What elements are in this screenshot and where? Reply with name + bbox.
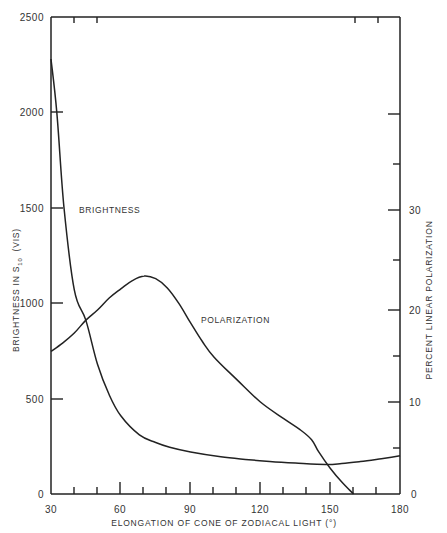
left-axis-title-subscript: 10	[17, 257, 23, 265]
tick-label-30: 30	[409, 205, 421, 216]
right-axis-title-text: PERCENT LINEAR POLARIZATION	[424, 220, 434, 379]
tick-label-x-150: 150	[321, 504, 339, 515]
bottom-tick-labels: 30 60 90 120 150 180	[45, 504, 409, 515]
plot-frame	[51, 17, 400, 494]
zodiacal-light-chart: 2500 2000 1500 1000 500 0 30 20 10 0 30 …	[0, 0, 447, 533]
svg-text:BRIGHTNESS IN S10(VIS): BRIGHTNESS IN S10(VIS)	[11, 228, 23, 352]
left-axis-title-suffix: (VIS)	[11, 228, 21, 251]
tick-label-0-right: 0	[411, 489, 417, 500]
left-axis-ticks	[51, 112, 63, 399]
polarization-curve	[51, 276, 354, 494]
left-tick-labels: 2500 2000 1500 1000 500 0	[20, 12, 44, 500]
tick-label-1000: 1000	[20, 298, 44, 309]
tick-label-10: 10	[409, 397, 421, 408]
right-axis-title: PERCENT LINEAR POLARIZATION	[424, 220, 434, 379]
bottom-axis-ticks	[74, 482, 376, 494]
tick-label-0-left: 0	[38, 489, 44, 500]
tick-label-x-90: 90	[184, 504, 196, 515]
tick-label-2000: 2000	[20, 107, 44, 118]
tick-label-x-30: 30	[45, 504, 57, 515]
tick-label-1500: 1500	[20, 203, 44, 214]
tick-label-20: 20	[409, 305, 421, 316]
left-axis-title-main: BRIGHTNESS IN S	[11, 266, 21, 352]
left-axis-title: BRIGHTNESS IN S10(VIS)	[11, 228, 23, 352]
x-axis-title: ELONGATION OF CONE OF ZODIACAL LIGHT (°)	[111, 518, 337, 528]
tick-label-500: 500	[26, 394, 44, 405]
top-axis-ticks	[74, 17, 378, 23]
brightness-curve	[51, 59, 400, 464]
right-axis-ticks	[388, 114, 400, 448]
tick-label-2500: 2500	[20, 12, 44, 23]
right-tick-labels: 30 20 10 0	[409, 205, 421, 500]
tick-label-x-120: 120	[251, 504, 269, 515]
tick-label-x-60: 60	[114, 504, 126, 515]
tick-label-x-180: 180	[391, 504, 409, 515]
polarization-label: POLARIZATION	[201, 315, 270, 325]
brightness-label: BRIGHTNESS	[79, 205, 140, 215]
